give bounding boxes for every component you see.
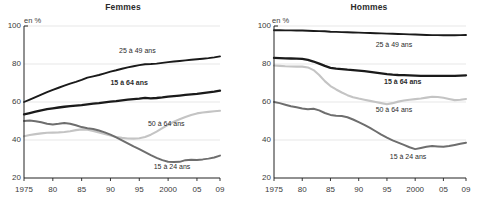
y-axis-tick-label: 20 — [251, 173, 271, 182]
y-axis-tick-label: 100 — [1, 21, 21, 30]
series-line-2 — [24, 91, 220, 115]
y-axis-tick-label: 40 — [1, 135, 21, 144]
chart-title-femmes: Femmes — [0, 2, 246, 12]
plot-area-hommes — [274, 26, 466, 178]
series-annotation-4: 15 à 24 ans — [390, 153, 427, 160]
x-axis-tick-label: 90 — [95, 185, 125, 194]
x-axis-tick-label: 1975 — [9, 185, 39, 194]
chart-svg — [274, 26, 466, 188]
y-axis-tick-label: 80 — [1, 59, 21, 68]
x-axis-tick-label: 95 — [124, 185, 154, 194]
series-annotation-4: 15 à 24 ans — [154, 163, 191, 170]
y-axis-tick-label: 60 — [1, 97, 21, 106]
x-axis-tick-label: 1975 — [259, 185, 289, 194]
y-axis-tick-label: 80 — [251, 59, 271, 68]
series-annotation-2: 15 à 64 ans — [110, 79, 147, 86]
axis-unit-label-femmes: en % — [24, 16, 41, 25]
axis-unit-label-hommes: en % — [272, 16, 289, 25]
figure-container: Femmes en % 2040608010019758085909520000… — [0, 0, 492, 211]
y-axis-tick-label: 60 — [251, 97, 271, 106]
series-line-4 — [24, 121, 220, 162]
series-annotation-3: 50 à 64 ans — [376, 106, 413, 113]
y-axis-tick-label: 40 — [251, 135, 271, 144]
series-annotation-3: 50 à 64 ans — [148, 120, 185, 127]
x-axis-tick-label: 90 — [344, 185, 374, 194]
series-line-1 — [274, 30, 466, 35]
chart-panel-femmes: Femmes en % 2040608010019758085909520000… — [0, 0, 246, 211]
x-axis-tick-label: 85 — [315, 185, 345, 194]
chart-panel-hommes: Hommes en % 2040608010019758085909520000… — [246, 0, 492, 211]
x-axis-tick-label: 09 — [451, 185, 481, 194]
series-annotation-1: 25 à 49 ans — [376, 41, 413, 48]
x-axis-tick-label: 2000 — [400, 185, 430, 194]
x-axis-tick-label: 80 — [38, 185, 68, 194]
x-axis-tick-label: 80 — [287, 185, 317, 194]
chart-title-hommes: Hommes — [246, 2, 492, 12]
y-axis-tick-label: 20 — [1, 173, 21, 182]
series-annotation-1: 25 à 49 ans — [119, 47, 156, 54]
x-axis-tick-label: 85 — [67, 185, 97, 194]
x-axis-tick-label: 2000 — [153, 185, 183, 194]
x-axis-tick-label: 95 — [372, 185, 402, 194]
series-line-4 — [274, 102, 466, 149]
x-axis-tick-label: 09 — [205, 185, 235, 194]
series-annotation-2: 15 à 64 ans — [384, 78, 421, 85]
y-axis-tick-label: 100 — [251, 21, 271, 30]
